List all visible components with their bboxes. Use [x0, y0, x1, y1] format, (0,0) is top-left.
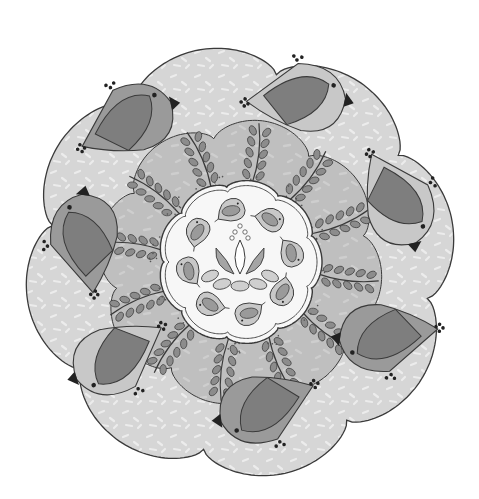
fern-leaf — [300, 166, 307, 176]
crest-berry — [295, 58, 299, 62]
fern-leaf — [317, 315, 327, 322]
tail-berry — [437, 322, 441, 326]
lotus-bud-dot — [230, 236, 234, 240]
lotus-bud-dot — [246, 236, 250, 240]
fern-leaf — [293, 175, 300, 185]
fern-leaf — [308, 308, 318, 315]
lotus-petal-lower — [231, 281, 249, 291]
crest-berry — [108, 85, 112, 89]
fern-leaf — [180, 339, 187, 349]
crest-berry — [300, 55, 304, 59]
tail-berry — [437, 329, 441, 333]
fern-leaf — [166, 356, 173, 366]
crest-berry — [112, 81, 116, 85]
lotus-bud-dot — [243, 230, 247, 234]
fern-leaf — [153, 202, 163, 209]
fern-leaf — [127, 182, 137, 189]
lotus-bud-dot — [233, 230, 237, 234]
fern-leaf — [313, 149, 320, 159]
fern-leaf — [325, 322, 335, 329]
fern-leaf — [187, 330, 194, 340]
fern-leaf — [136, 188, 146, 195]
fern-leaf — [286, 184, 293, 194]
fern-leaf — [173, 347, 180, 357]
fern-leaf — [144, 195, 154, 202]
crest-berry — [292, 54, 296, 58]
fern-leaf — [162, 209, 172, 216]
crest-berry — [104, 83, 108, 87]
tail-berry — [441, 326, 445, 330]
fern-leaf — [307, 158, 314, 168]
mandala-artwork — [0, 0, 479, 499]
lotus-bud-dot — [238, 224, 242, 228]
fern-leaf — [160, 364, 167, 374]
